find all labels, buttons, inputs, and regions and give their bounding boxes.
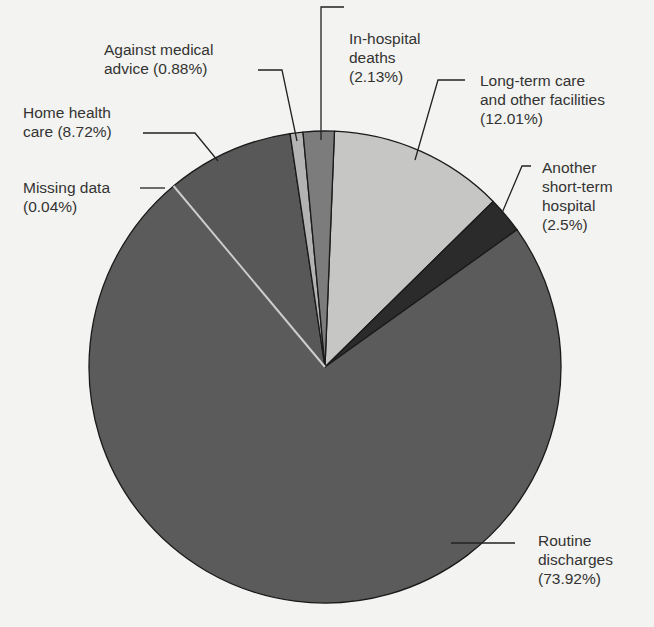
leader-line-home-health	[143, 133, 218, 161]
leader-line-in-hospital	[321, 7, 344, 140]
leader-line-short-term	[502, 166, 531, 213]
label-long-term-care: Long-term care and other facilities (12.…	[480, 71, 605, 128]
label-in-hospital-deaths: In-hospital deaths (2.13%)	[349, 29, 421, 86]
label-routine-discharges: Routine discharges (73.92%)	[538, 531, 613, 588]
pie-chart: Against medical advice (0.88%) In-hospit…	[0, 0, 654, 627]
label-home-health-care: Home health care (8.72%)	[23, 103, 112, 141]
pie-slices	[89, 131, 561, 603]
label-another-short-term-hospital: Another short-term hospital (2.5%)	[542, 158, 613, 234]
leader-line-long-term	[415, 80, 465, 160]
leader-line-against-advice	[258, 70, 297, 141]
label-against-medical-advice: Against medical advice (0.88%)	[104, 40, 213, 78]
label-missing-data: Missing data (0.04%)	[23, 178, 110, 216]
